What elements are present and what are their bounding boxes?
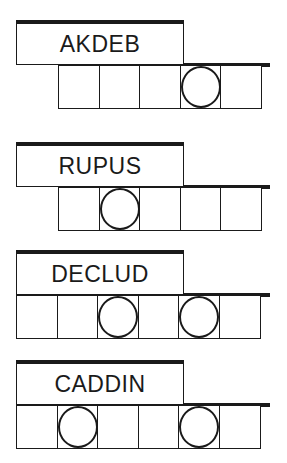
answer-cell[interactable]	[139, 65, 181, 109]
scrambled-word-box: CADDIN	[16, 360, 184, 405]
jumble-puzzle-2: RUPUS	[0, 142, 287, 242]
scrambled-word: AKDEB	[60, 33, 140, 56]
jumble-puzzle-3: DECLUD	[0, 250, 287, 350]
answer-row	[58, 65, 261, 109]
circle-marker-icon	[98, 296, 138, 338]
circle-marker-icon	[100, 188, 140, 230]
circle-marker-icon	[58, 406, 98, 448]
scrambled-word-box: AKDEB	[16, 20, 184, 65]
answer-cell[interactable]	[180, 187, 222, 231]
scrambled-word-box: RUPUS	[16, 142, 184, 187]
answer-cell[interactable]	[219, 295, 261, 339]
scrambled-word: RUPUS	[58, 155, 141, 178]
answer-cell[interactable]	[58, 187, 100, 231]
answer-cell[interactable]	[138, 405, 180, 449]
answer-row	[16, 405, 259, 449]
circle-marker-icon	[179, 296, 219, 338]
answer-row	[58, 187, 261, 231]
scrambled-word: CADDIN	[54, 373, 145, 396]
scrambled-word: DECLUD	[51, 263, 149, 286]
answer-cell[interactable]	[178, 295, 220, 339]
answer-cell[interactable]	[220, 65, 262, 109]
answer-cell[interactable]	[16, 405, 58, 449]
circle-marker-icon	[181, 66, 221, 108]
answer-row	[16, 295, 259, 339]
scrambled-word-box: DECLUD	[16, 250, 184, 295]
circle-marker-icon	[179, 406, 219, 448]
answer-cell[interactable]	[57, 295, 99, 339]
jumble-puzzle-1: AKDEB	[0, 20, 287, 120]
answer-cell[interactable]	[97, 405, 139, 449]
answer-cell[interactable]	[219, 405, 261, 449]
answer-cell[interactable]	[180, 65, 222, 109]
answer-cell[interactable]	[99, 65, 141, 109]
answer-cell[interactable]	[58, 65, 100, 109]
jumble-puzzle-4: CADDIN	[0, 360, 287, 460]
answer-cell[interactable]	[57, 405, 99, 449]
answer-cell[interactable]	[220, 187, 262, 231]
answer-cell[interactable]	[178, 405, 220, 449]
answer-cell[interactable]	[97, 295, 139, 339]
answer-cell[interactable]	[16, 295, 58, 339]
answer-cell[interactable]	[99, 187, 141, 231]
answer-cell[interactable]	[138, 295, 180, 339]
answer-cell[interactable]	[139, 187, 181, 231]
